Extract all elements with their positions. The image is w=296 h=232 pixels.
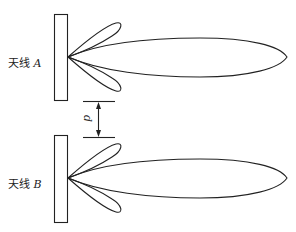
- antenna-a-lower-side-lobe: [68, 57, 121, 91]
- antenna-diagram: 天线 A 天线 B d: [0, 0, 296, 232]
- antenna-b-panel: [55, 136, 68, 223]
- separation-label: d: [81, 115, 94, 122]
- antenna-b-lower-side-lobe: [68, 178, 121, 212]
- arrow-up-icon: [96, 102, 101, 109]
- diagram-canvas: [0, 0, 296, 232]
- antenna-b-label-text: 天线: [8, 178, 30, 191]
- antenna-a-panel: [55, 15, 68, 101]
- antenna-b-label: 天线 B: [8, 175, 42, 191]
- antenna-a-upper-side-lobe: [68, 23, 121, 57]
- arrow-down-icon: [96, 130, 101, 137]
- antenna-b-label-var: B: [34, 178, 42, 191]
- antenna-a-label-var: A: [34, 57, 42, 70]
- antenna-a-label-text: 天线: [8, 57, 30, 70]
- antenna-b-upper-side-lobe: [68, 144, 121, 178]
- antenna-a-label: 天线 A: [8, 54, 41, 70]
